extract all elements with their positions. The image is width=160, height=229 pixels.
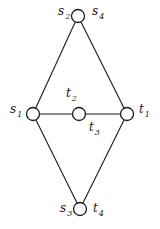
- node-label-s1: s1: [10, 102, 22, 119]
- node-right: [121, 108, 134, 121]
- node-bottom: [74, 203, 87, 216]
- edge-right-bottom: [80, 114, 127, 209]
- graph-diagram: s2s4s1t2t3t1s3t4: [0, 0, 160, 229]
- node-label-s2: s2: [58, 4, 70, 21]
- node-left: [27, 108, 40, 121]
- node-label-t1: t1: [139, 102, 150, 119]
- node-label-t3: t3: [89, 120, 100, 137]
- node-label-s4: s4: [92, 4, 104, 21]
- node-label-t2: t2: [66, 86, 77, 103]
- node-middle: [73, 108, 86, 121]
- node-label-t4: t4: [93, 201, 104, 218]
- node-label-s3: s3: [60, 201, 72, 218]
- edge-left-bottom: [33, 114, 80, 209]
- nodes: [27, 10, 134, 216]
- edge-top-right: [78, 16, 127, 114]
- node-top: [72, 10, 85, 23]
